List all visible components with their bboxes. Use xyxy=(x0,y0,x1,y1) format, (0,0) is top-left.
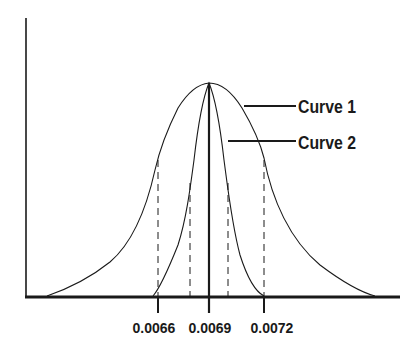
chart-canvas: 0.0066 0.0069 0.0072 Curve 1 Curve 2 xyxy=(0,0,419,357)
tick-label-0.0072: 0.0072 xyxy=(251,320,294,336)
curve-1-label: Curve 1 xyxy=(298,96,356,117)
curve-2-label: Curve 2 xyxy=(298,132,356,153)
tick-label-0.0069: 0.0069 xyxy=(189,320,232,336)
tick-label-0.0066: 0.0066 xyxy=(133,320,176,336)
